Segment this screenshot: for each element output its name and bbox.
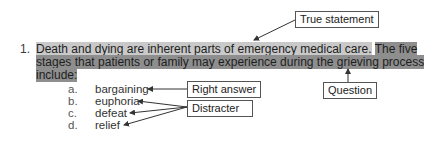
distracter-arrow-relief <box>124 107 187 125</box>
distracter-arrow-euphoria <box>138 101 187 107</box>
distracter-arrow-defeat <box>130 107 187 113</box>
true-statement-arrow <box>254 20 295 40</box>
